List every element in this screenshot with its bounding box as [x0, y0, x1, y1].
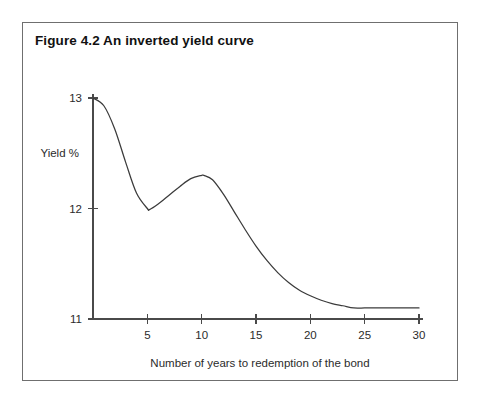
x-tick-label: 20: [304, 329, 317, 341]
x-axis-tick-labels: 51015202530: [144, 329, 425, 341]
yield-curve-chart: 111213 51015202530 Yield % Number of yea…: [23, 23, 459, 382]
x-tick-label: 30: [413, 329, 426, 341]
x-tick-label: 25: [358, 329, 371, 341]
figure-container: Figure 4.2 An inverted yield curve 11121…: [0, 0, 487, 404]
y-tick-label: 12: [69, 203, 82, 215]
yield-curve-line: [93, 98, 419, 308]
y-axis-tick-labels: 111213: [69, 92, 82, 325]
x-tick-label: 5: [144, 329, 150, 341]
x-tick-label: 10: [195, 329, 208, 341]
y-axis-title: Yield %: [40, 147, 79, 159]
figure-frame: Figure 4.2 An inverted yield curve 11121…: [22, 22, 458, 381]
y-tick-label: 13: [69, 92, 82, 104]
x-axis-title: Number of years to redemption of the bon…: [150, 357, 369, 369]
x-tick-label: 15: [250, 329, 263, 341]
y-tick-label: 11: [70, 313, 82, 325]
series-group: [93, 98, 419, 308]
